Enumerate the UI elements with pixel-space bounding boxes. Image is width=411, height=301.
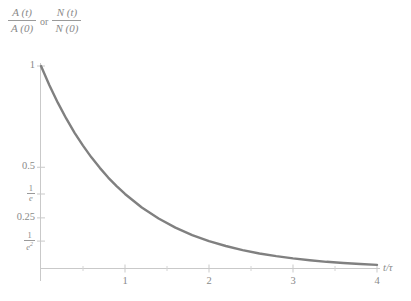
y-tick-fraction-denominator: e2 xyxy=(24,240,35,252)
y-tick-label: 0.5 xyxy=(1,160,35,171)
x-tick-label: 4 xyxy=(362,275,392,286)
exponential-decay-curve xyxy=(41,66,377,265)
y-tick-label-fraction: 1e2 xyxy=(24,231,35,252)
decay-curve-figure: A (t) A (0) or N (t) N (0) t/τ 10.51e0.2… xyxy=(0,0,411,301)
y-tick-label: 1e xyxy=(1,184,35,203)
y-axis-label-a-numerator: A (t) xyxy=(9,6,35,20)
y-tick-label-fraction: 1e xyxy=(27,184,35,203)
x-tick-label: 1 xyxy=(110,275,140,286)
y-axis-label-fraction-n: N (t) N (0) xyxy=(52,6,81,34)
y-axis-label: A (t) A (0) or N (t) N (0) xyxy=(8,6,81,34)
y-axis-label-fraction-a: A (t) A (0) xyxy=(8,6,36,34)
x-axis-title: t/τ xyxy=(383,262,393,273)
y-axis-label-conjunction: or xyxy=(39,16,49,27)
y-tick-fraction-numerator: 1 xyxy=(27,184,35,193)
y-axis-label-a-denominator: A (0) xyxy=(8,20,36,35)
y-tick-label: 1e2 xyxy=(1,231,35,252)
y-tick-fraction-denominator: e xyxy=(27,193,35,203)
y-axis-label-n-numerator: N (t) xyxy=(54,6,80,20)
x-tick-label: 2 xyxy=(194,275,224,286)
x-tick-label: 3 xyxy=(278,275,308,286)
y-tick-label: 0.25 xyxy=(1,211,35,222)
y-tick-fraction-numerator: 1 xyxy=(25,231,33,240)
chart-canvas xyxy=(0,0,411,301)
y-tick-fraction-exponent: 2 xyxy=(30,241,33,247)
y-axis-label-n-denominator: N (0) xyxy=(52,20,81,35)
y-tick-label: 1 xyxy=(1,59,35,70)
